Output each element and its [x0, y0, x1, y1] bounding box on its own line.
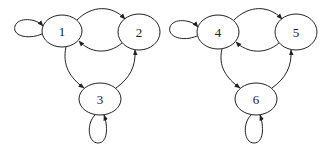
right-graph-nodes: 456: [197, 14, 317, 115]
edge-4-to-6: [221, 49, 240, 88]
node-6: 6: [235, 83, 277, 115]
nodes-layer: 123456: [42, 14, 317, 115]
edge-1-to-2: [77, 9, 125, 20]
edge-3-to-2: [116, 50, 135, 88]
node-2: 2: [118, 14, 160, 50]
node-1: 1: [42, 15, 82, 47]
edge-6-to-5: [272, 50, 291, 88]
edge-2-to-1: [79, 41, 122, 51]
node-label: 4: [215, 25, 222, 40]
left-graph-nodes: 123: [42, 14, 160, 115]
node-label: 1: [59, 24, 66, 39]
edge-4-to-5: [234, 9, 282, 20]
node-5: 5: [275, 14, 317, 50]
node-label: 3: [97, 92, 104, 107]
self-loop-edge-6: [245, 115, 262, 143]
self-loop-edge-4: [170, 21, 198, 39]
directed-graph-diagram: 123456: [0, 0, 333, 153]
edge-5-to-4: [236, 42, 279, 51]
self-loop-edge-1: [15, 20, 43, 37]
self-loop-edge-3: [89, 115, 106, 143]
node-label: 2: [136, 25, 143, 40]
edge-1-to-3: [65, 47, 84, 88]
node-3: 3: [79, 83, 121, 115]
node-label: 6: [253, 92, 260, 107]
node-4: 4: [197, 15, 239, 49]
node-label: 5: [293, 25, 300, 40]
